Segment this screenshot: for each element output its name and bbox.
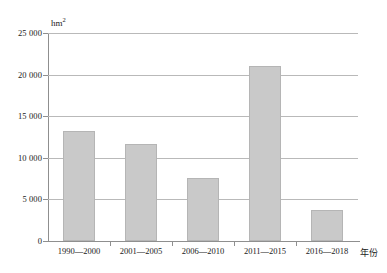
y-axis-tick-label: 25 000 xyxy=(0,28,42,38)
y-axis-tick xyxy=(43,241,48,242)
x-axis-tick-label: 1990—2000 xyxy=(48,246,110,256)
x-axis-tick-label: 2001—2005 xyxy=(110,246,172,256)
plot-area xyxy=(48,33,358,241)
bar xyxy=(311,210,343,241)
y-axis-unit-label: hm2 xyxy=(51,16,66,28)
y-axis-tick-label: 15 000 xyxy=(0,111,42,121)
y-axis-tick-label: 5 000 xyxy=(0,194,42,204)
bar-chart-figure: hm2 05 00010 00015 00020 00025 000 1990—… xyxy=(0,0,387,273)
bar xyxy=(187,178,219,241)
y-axis-tick-label: 10 000 xyxy=(0,153,42,163)
bar xyxy=(249,66,281,241)
bar xyxy=(125,144,157,241)
x-axis-line xyxy=(48,241,360,242)
y-axis-tick-label: 0 xyxy=(0,236,42,246)
x-axis-tick-label: 2016—2018 xyxy=(296,246,358,256)
bar xyxy=(63,131,95,241)
x-axis-tick-label: 2006—2010 xyxy=(172,246,234,256)
x-axis-tick-label: 2011—2015 xyxy=(234,246,296,256)
x-axis-title: 年份 xyxy=(360,246,378,259)
y-axis-tick-label: 20 000 xyxy=(0,70,42,80)
